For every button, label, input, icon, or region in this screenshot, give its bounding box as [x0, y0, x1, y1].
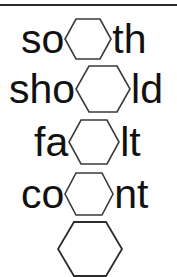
word-row-3-prefix: fa [34, 122, 68, 163]
word-row-4-suffix: nt [114, 174, 148, 215]
word-row-1-prefix: so [21, 19, 64, 60]
large-hexagon-icon[interactable] [57, 221, 123, 277]
hexagon-blank-icon-3[interactable] [68, 119, 120, 165]
hexagon-blank-icon-4[interactable] [64, 172, 114, 216]
top-horizontal-rule [0, 4, 177, 6]
word-row-3: fa lt [34, 119, 141, 165]
hexagon-blank-icon-2[interactable] [75, 65, 131, 113]
word-row-2-prefix: sho [9, 69, 75, 110]
word-row-2-suffix: ld [131, 69, 163, 110]
word-row-1: so th [21, 18, 147, 60]
puzzle-page: so th sho ld fa lt co [0, 0, 177, 277]
word-row-2: sho ld [9, 65, 163, 113]
word-row-1-suffix: th [112, 19, 146, 60]
word-row-4: co nt [21, 172, 149, 216]
hexagon-blank-icon-1[interactable] [64, 18, 112, 60]
word-row-3-suffix: lt [120, 122, 141, 163]
word-row-4-prefix: co [21, 174, 64, 215]
